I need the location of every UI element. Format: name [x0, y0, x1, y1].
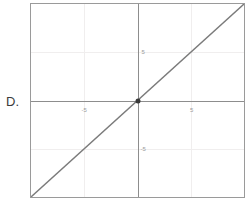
- x-tick-label-positive-5: 5: [190, 107, 193, 113]
- y-tick-label-positive-5: 5: [142, 49, 145, 55]
- plot-frame: 5 -5 -5 5: [30, 3, 245, 198]
- origin-point-marker: [135, 98, 140, 103]
- answer-choice-letter: D.: [6, 95, 19, 108]
- x-tick-label-negative-5: -5: [82, 107, 87, 113]
- y-tick-label-negative-5: -5: [141, 146, 146, 152]
